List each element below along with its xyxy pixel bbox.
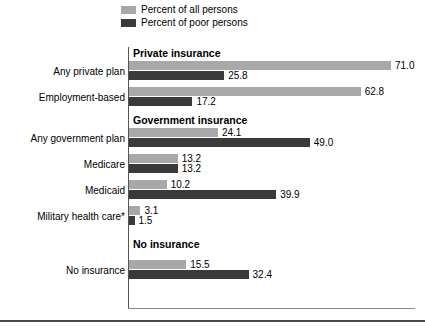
section-header: No insurance	[133, 238, 200, 250]
bar-all-persons	[129, 260, 186, 269]
category-label: Any private plan	[4, 66, 128, 77]
bar-value-all-persons: 15.5	[190, 260, 209, 270]
bar-value-poor-persons: 32.4	[253, 270, 272, 280]
legend-item-all-persons: Percent of all persons	[121, 4, 371, 15]
bar-value-poor-persons: 49.0	[314, 138, 333, 148]
category-label-wrap: Any private plan	[0, 61, 128, 83]
category-label-wrap: Military health care*	[0, 206, 128, 228]
bar-poor-persons	[129, 270, 249, 279]
chart-container: Percent of all persons Percent of poor p…	[0, 0, 425, 326]
bar-poor-persons	[129, 190, 276, 199]
category-label-wrap: Medicaid	[0, 180, 128, 202]
bar-all-persons	[129, 180, 167, 189]
category-label: No insurance	[4, 265, 128, 276]
footer-divider	[0, 320, 425, 322]
category-label-wrap: Medicare	[0, 154, 128, 176]
chart-rows-layer: Private insuranceAny private plan71.025.…	[0, 47, 425, 309]
chart-legend: Percent of all persons Percent of poor p…	[121, 4, 371, 30]
bar-value-poor-persons: 25.8	[228, 71, 247, 81]
bar-all-persons	[129, 154, 178, 163]
category-label: Employment-based	[4, 92, 128, 103]
category-label-wrap: Any government plan	[0, 128, 128, 150]
bar-poor-persons	[129, 138, 310, 147]
category-label-wrap: No insurance	[0, 260, 128, 282]
bar-poor-persons	[129, 97, 192, 106]
bar-value-poor-persons: 17.2	[196, 97, 215, 107]
bar-value-all-persons: 62.8	[365, 87, 384, 97]
category-label: Medicare	[4, 159, 128, 170]
bar-all-persons	[129, 87, 361, 96]
bar-all-persons	[129, 206, 140, 215]
bar-all-persons	[129, 128, 218, 137]
category-label: Medicaid	[4, 185, 128, 196]
bar-poor-persons	[129, 71, 224, 80]
legend-swatch-icon-all-persons	[121, 6, 136, 14]
category-label: Military health care*	[4, 211, 128, 222]
bar-value-poor-persons: 13.2	[182, 164, 201, 174]
legend-label-all-persons: Percent of all persons	[141, 4, 238, 15]
bar-poor-persons	[129, 216, 135, 225]
section-header: Private insurance	[133, 47, 221, 59]
section-header: Government insurance	[133, 114, 247, 126]
legend-item-poor-persons: Percent of poor persons	[121, 17, 371, 28]
category-label: Any government plan	[4, 133, 128, 144]
bar-value-poor-persons: 1.5	[139, 216, 153, 226]
bar-poor-persons	[129, 164, 178, 173]
legend-swatch-icon-poor-persons	[121, 19, 136, 27]
bar-all-persons	[129, 61, 391, 70]
bar-value-all-persons: 24.1	[222, 128, 241, 138]
legend-label-poor-persons: Percent of poor persons	[141, 17, 248, 28]
bar-value-all-persons: 10.2	[171, 180, 190, 190]
bar-value-poor-persons: 39.9	[280, 190, 299, 200]
bar-value-all-persons: 71.0	[395, 61, 414, 71]
category-label-wrap: Employment-based	[0, 87, 128, 109]
